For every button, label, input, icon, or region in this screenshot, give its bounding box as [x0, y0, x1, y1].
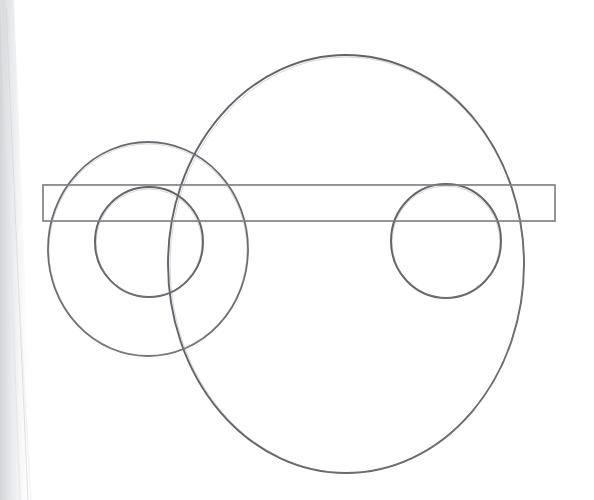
paper-background: [0, 0, 594, 500]
geometric-drawing: [0, 0, 594, 500]
drawing-canvas: [0, 0, 594, 500]
